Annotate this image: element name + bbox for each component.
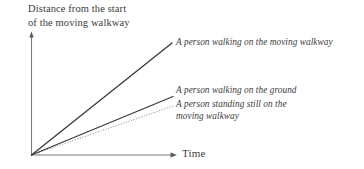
series-label-walkway-walking: A person walking on the moving walkway bbox=[176, 37, 362, 49]
series-line-walkway-walking bbox=[32, 43, 173, 155]
x-axis-arrowhead bbox=[171, 153, 178, 158]
series-line-ground-walking bbox=[32, 97, 174, 156]
series-label-standing-still: A person standing still on the moving wa… bbox=[176, 99, 326, 122]
y-axis-arrowhead bbox=[29, 32, 33, 38]
series-line-standing-still bbox=[32, 106, 174, 155]
series-label-ground-walking: A person walking on the ground bbox=[176, 85, 346, 97]
x-axis-label: Time bbox=[182, 147, 206, 160]
distance-time-graph-figure: Distance from the start of the moving wa… bbox=[0, 0, 364, 169]
